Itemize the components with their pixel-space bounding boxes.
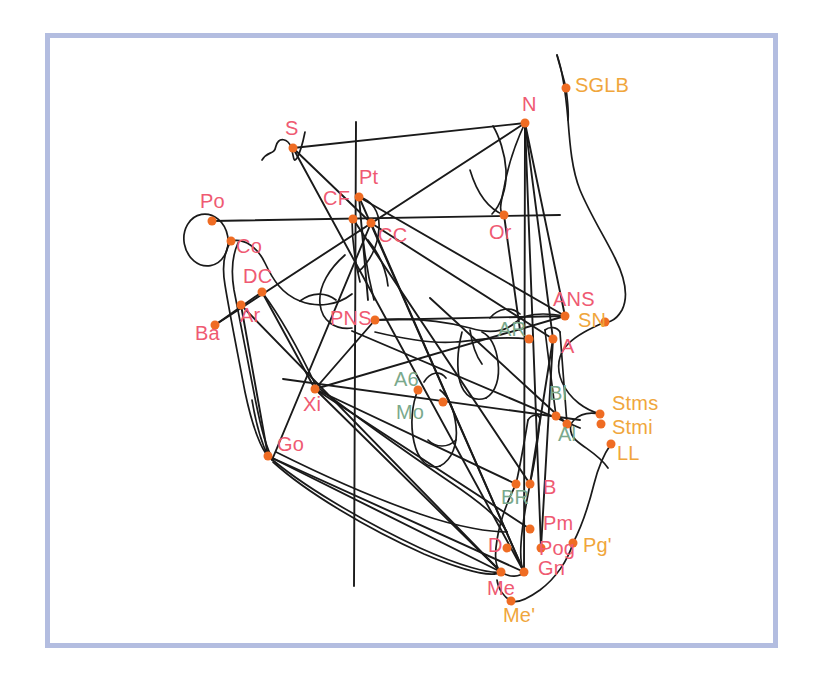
landmark-label-ANS: ANS xyxy=(553,289,595,309)
landmark-point-Go[interactable] xyxy=(264,452,273,461)
landmark-label-Al: Al xyxy=(558,424,576,444)
landmark-point-PNS[interactable] xyxy=(371,316,380,325)
landmark-label-SGLB: SGLB xyxy=(575,75,629,95)
landmark-label-SN: SN xyxy=(578,310,606,330)
cephalometric-figure: SNPoPtCFCCOrCoDCArBaPNSANSAXiGoBPmDPogGn… xyxy=(0,0,817,694)
landmark-point-S[interactable] xyxy=(289,144,298,153)
landmark-point-Stms[interactable] xyxy=(596,410,605,419)
landmark-label-CF: CF xyxy=(323,188,350,208)
landmark-label-B: B xyxy=(543,477,557,497)
landmark-point-DC[interactable] xyxy=(258,288,267,297)
landmark-label-Po: Po xyxy=(200,191,225,211)
landmark-point-Stmi[interactable] xyxy=(597,420,606,429)
landmark-label-N: N xyxy=(522,94,537,114)
landmark-label-LL: LL xyxy=(617,443,640,463)
landmark-label-Co: Co xyxy=(236,236,262,256)
landmark-label-Ar: Ar xyxy=(240,305,260,325)
landmark-point-Po[interactable] xyxy=(208,217,217,226)
landmark-label-DC: DC xyxy=(243,266,272,286)
landmark-label-Go: Go xyxy=(277,434,304,454)
tracing-canvas xyxy=(0,0,817,694)
landmark-label-Mo: Mo xyxy=(396,402,424,422)
landmark-label-S: S xyxy=(285,118,299,138)
landmark-label-A: A xyxy=(561,336,575,356)
cephalometric-construction-lines xyxy=(212,122,580,586)
landmark-label-Meprime: Me' xyxy=(503,605,535,625)
landmark-label-Xi: Xi xyxy=(303,394,321,414)
landmark-label-Bl: Bl xyxy=(549,383,567,403)
landmark-label-Pt: Pt xyxy=(359,167,378,187)
landmark-point-Pm[interactable] xyxy=(526,525,535,534)
landmark-label-Pgprime: Pg' xyxy=(583,535,612,555)
landmark-label-D: D xyxy=(488,535,503,555)
landmark-point-Pt[interactable] xyxy=(355,193,364,202)
landmark-point-A[interactable] xyxy=(549,335,558,344)
landmark-label-Gn: Gn xyxy=(538,558,565,578)
landmark-label-Or: Or xyxy=(489,222,512,242)
landmark-label-Pm: Pm xyxy=(543,513,573,533)
landmark-point-Gn[interactable] xyxy=(520,568,529,577)
landmark-point-Bl[interactable] xyxy=(552,412,561,421)
landmark-point-CF[interactable] xyxy=(349,215,358,224)
landmark-point-Me[interactable] xyxy=(497,568,506,577)
landmark-point-CC[interactable] xyxy=(367,219,376,228)
landmark-label-Ba: Ba xyxy=(195,323,220,343)
landmark-point-N[interactable] xyxy=(521,119,530,128)
landmark-point-Or[interactable] xyxy=(500,211,509,220)
landmark-label-Me: Me xyxy=(487,578,515,598)
landmark-point-Mo[interactable] xyxy=(439,398,448,407)
landmark-label-Stmi: Stmi xyxy=(612,417,653,437)
landmark-point-D[interactable] xyxy=(503,544,512,553)
landmark-label-Pog: Pog xyxy=(539,538,575,558)
landmark-point-Co[interactable] xyxy=(227,237,236,246)
landmark-point-ANS[interactable] xyxy=(561,312,570,321)
landmark-label-PNS: PNS xyxy=(330,308,372,328)
landmark-point-LL[interactable] xyxy=(607,440,616,449)
landmark-point-SGLB[interactable] xyxy=(562,84,571,93)
landmark-label-CC: CC xyxy=(378,225,407,245)
landmark-label-Stms: Stms xyxy=(612,393,658,413)
landmark-label-A6: A6 xyxy=(394,369,419,389)
landmark-label-BR: BR xyxy=(501,487,529,507)
landmark-label-AR: AR xyxy=(498,319,526,339)
